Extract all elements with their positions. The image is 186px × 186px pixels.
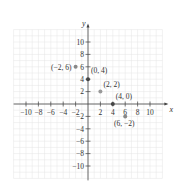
coordinate-plane: xy −10−8−6−4−2246810−10−8−6−4−2246810 (−… <box>0 0 186 186</box>
x-tick-label: 8 <box>136 108 140 117</box>
x-axis-label: x <box>168 105 173 114</box>
data-point <box>98 90 102 94</box>
y-tick-label: −6 <box>76 137 84 146</box>
points: (−2, 6)(0, 4)(2, 2)(4, 0)(6, −2) <box>51 63 135 129</box>
y-tick-label: −4 <box>76 125 84 134</box>
y-tick-label: 6 <box>80 63 84 72</box>
y-tick-label: 10 <box>77 38 85 47</box>
data-point-label: (4, 0) <box>116 92 133 101</box>
y-tick-label: −8 <box>76 149 84 158</box>
y-tick-label: −2 <box>76 112 84 121</box>
data-point-label: (0, 4) <box>91 66 108 75</box>
y-tick-label: 2 <box>80 87 84 96</box>
data-point-label: (6, −2) <box>114 119 135 128</box>
x-tick-label: −4 <box>59 108 67 117</box>
data-point <box>74 65 78 69</box>
x-tick-label: 2 <box>99 108 103 117</box>
data-point-label: (−2, 6) <box>51 63 72 72</box>
data-point <box>123 114 127 118</box>
x-axis-arrow-icon <box>164 103 168 106</box>
x-tick-label: 10 <box>146 108 154 117</box>
data-point-label: (2, 2) <box>103 80 120 89</box>
x-tick-label: −10 <box>20 108 32 117</box>
y-axis-label: y <box>81 19 86 28</box>
y-tick-label: 8 <box>80 50 84 59</box>
y-tick-label: −10 <box>72 162 84 171</box>
y-tick-label: 4 <box>80 75 84 84</box>
data-point <box>86 77 90 81</box>
data-point <box>111 102 115 106</box>
x-tick-label: −6 <box>47 108 55 117</box>
x-tick-label: 4 <box>111 108 115 117</box>
x-tick-label: −8 <box>34 108 42 117</box>
axes: xy <box>14 19 174 181</box>
y-axis-arrow-icon <box>87 24 90 28</box>
